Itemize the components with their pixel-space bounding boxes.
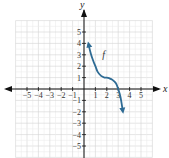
x-tick-label: 4 [128,91,132,100]
x-axis-label: x [162,83,168,94]
y-tick-label: 2 [77,62,81,71]
x-axis-right-arrow-icon [153,86,161,92]
y-tick-label: −4 [72,131,81,140]
x-tick-label: −4 [34,91,43,100]
y-tick-label: −1 [72,96,81,105]
x-tick-label: −5 [23,91,32,100]
y-tick-label: 3 [77,51,81,60]
x-tick-label: −3 [46,91,55,100]
x-axis-left-arrow-icon [4,86,12,92]
y-tick-label: −2 [72,108,81,117]
function-graph: −5−4−3−2−11234554321−1−2−3−4−5 x y f [0,0,169,158]
y-tick-label: −3 [72,119,81,128]
y-tick-label: 5 [77,28,81,37]
x-tick-label: 5 [139,91,143,100]
y-axis-up-arrow-icon [81,9,87,17]
x-tick-label: 2 [105,91,109,100]
curve-end-arrow-icon [119,107,125,113]
curve-start-arrow-icon [86,42,92,49]
x-tick-label: −2 [57,91,66,100]
x-tick-label: 1 [93,91,97,100]
y-axis-label: y [79,0,85,10]
y-tick-label: 4 [77,39,81,48]
y-tick-label: −5 [72,142,81,151]
y-tick-label: 1 [77,74,81,83]
